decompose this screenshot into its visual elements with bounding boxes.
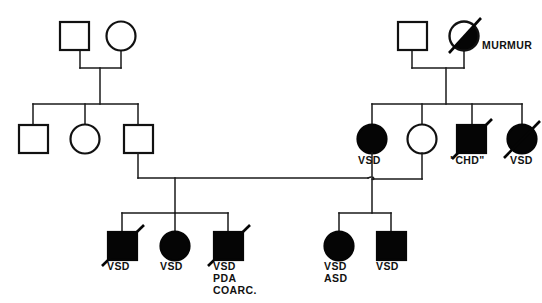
label-III3-line2: PDA bbox=[213, 273, 236, 285]
individual-II4-circle-affected bbox=[358, 125, 387, 154]
label-III4-line1: VSD bbox=[324, 261, 347, 273]
sibship-III-left bbox=[122, 178, 228, 232]
label-III4-line2: ASD bbox=[324, 273, 347, 285]
individual-III2-circle-affected bbox=[161, 232, 190, 261]
label-murmur: MURMUR bbox=[482, 40, 532, 52]
individual-I2-circle bbox=[107, 22, 136, 51]
individual-I1-square bbox=[60, 22, 89, 50]
individual-II1-square bbox=[19, 125, 48, 153]
pedigree-diagram bbox=[0, 0, 542, 303]
label-III3-line1: VSD bbox=[213, 261, 236, 273]
label-III5-vsd: VSD bbox=[376, 261, 399, 273]
individual-II2-circle bbox=[71, 125, 100, 154]
couple-I1-I2 bbox=[33, 50, 138, 125]
label-III1-vsd: VSD bbox=[107, 261, 130, 273]
individual-III4-circle-affected bbox=[325, 232, 354, 261]
individual-II3-square bbox=[124, 125, 153, 153]
individual-II5-circle bbox=[408, 125, 437, 154]
label-III3-line3: COARC. bbox=[213, 285, 257, 297]
individual-II6-square-affected-deceased bbox=[452, 119, 492, 159]
individual-I3-square bbox=[398, 22, 427, 50]
pedigree-chart: MURMUR VSD "CHD" VSD VSD VSD VSD PDA COA… bbox=[0, 0, 542, 303]
individual-II7-circle-affected-deceased bbox=[504, 121, 540, 158]
label-II4-vsd: VSD bbox=[358, 155, 381, 167]
individual-I4-circle-half-filled-deceased bbox=[445, 18, 483, 56]
sibship-III-right bbox=[339, 179, 391, 232]
label-II7-vsd: VSD bbox=[510, 155, 533, 167]
label-III2-vsd: VSD bbox=[160, 261, 183, 273]
individual-III5-square-affected bbox=[377, 232, 406, 260]
couple-I3-I4 bbox=[372, 50, 522, 125]
label-II6-chd: "CHD" bbox=[450, 155, 485, 167]
